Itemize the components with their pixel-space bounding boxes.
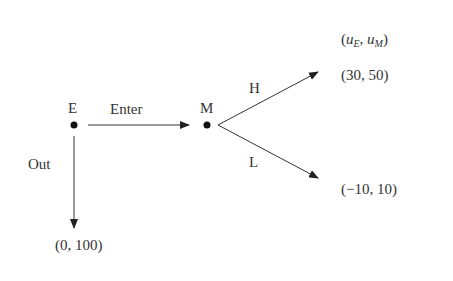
edge-out-label: Out [28,157,51,172]
subscript-m: M [375,38,383,49]
payoff-out: (0, 100) [55,238,103,253]
utility-symbol-e: u [346,31,354,47]
utility-symbol-m: u [367,31,375,47]
edge-high-label: H [249,81,260,96]
paren-close: ) [383,31,388,47]
payoff-header: (uE, uM) [341,32,388,49]
edge-low [218,125,318,178]
node-M-label: M [200,101,213,116]
node-E-dot [71,122,78,129]
edge-enter-label: Enter [110,102,142,117]
node-M-dot [204,122,211,129]
edge-low-label: L [249,155,258,170]
edge-high [218,72,318,125]
payoff-low: (−10, 10) [341,182,397,197]
payoff-high: (30, 50) [341,68,389,83]
separator: , [360,31,368,47]
node-E-label: E [68,101,77,116]
